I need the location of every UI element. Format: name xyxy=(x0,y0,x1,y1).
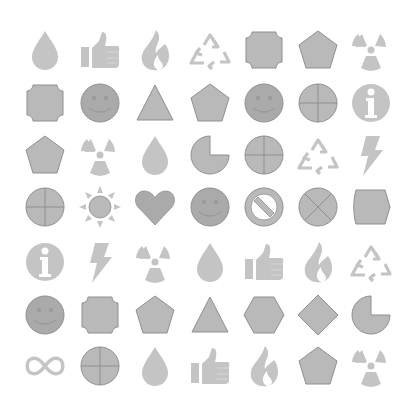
info-icon xyxy=(22,239,68,285)
thumbs-up-icon xyxy=(187,343,233,389)
infinity-icon xyxy=(22,343,68,389)
notched-square-icon xyxy=(241,27,287,73)
notched-square-icon xyxy=(22,80,68,126)
barrel-icon xyxy=(348,184,394,230)
flame-icon xyxy=(132,27,178,73)
sun-icon xyxy=(77,184,123,230)
circle-cross-icon xyxy=(22,184,68,230)
flame-icon xyxy=(295,239,341,285)
pie-icon xyxy=(187,132,233,178)
hexagon-icon xyxy=(241,292,287,338)
pentagon-icon xyxy=(187,80,233,126)
smiley-icon xyxy=(22,292,68,338)
thumbs-up-icon xyxy=(77,27,123,73)
radiation-icon xyxy=(348,27,394,73)
pentagon-icon xyxy=(22,132,68,178)
drop-icon xyxy=(132,343,178,389)
pentagon-icon xyxy=(295,343,341,389)
circle-cross-icon xyxy=(77,343,123,389)
triangle-icon xyxy=(187,292,233,338)
triangle-icon xyxy=(132,80,178,126)
diamond-icon xyxy=(295,292,341,338)
smiley-icon xyxy=(77,80,123,126)
lightning-icon xyxy=(77,239,123,285)
radiation-icon xyxy=(132,239,178,285)
radiation-icon xyxy=(348,343,394,389)
circle-x-icon xyxy=(295,184,341,230)
pentagon-icon xyxy=(295,27,341,73)
lightning-icon xyxy=(348,132,394,178)
recycle-icon xyxy=(295,132,341,178)
recycle-icon xyxy=(348,239,394,285)
smiley-icon xyxy=(187,184,233,230)
circle-cross-icon xyxy=(241,132,287,178)
info-icon xyxy=(348,80,394,126)
drop-icon xyxy=(22,27,68,73)
no-symbol-icon xyxy=(241,184,287,230)
smiley-icon xyxy=(241,80,287,126)
thumbs-up-icon xyxy=(241,239,287,285)
recycle-icon xyxy=(187,27,233,73)
pentagon-icon xyxy=(132,292,178,338)
notched-square-icon xyxy=(77,292,123,338)
circle-cross-icon xyxy=(295,80,341,126)
flame-icon xyxy=(241,343,287,389)
drop-icon xyxy=(187,239,233,285)
radiation-icon xyxy=(77,132,123,178)
heart-icon xyxy=(132,184,178,230)
drop-icon xyxy=(132,132,178,178)
pie-icon xyxy=(348,292,394,338)
icon-grid xyxy=(0,0,400,415)
